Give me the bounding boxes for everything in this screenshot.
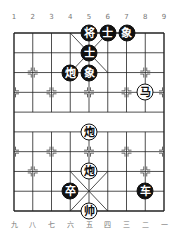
file-label-bottom: 一 — [161, 222, 168, 229]
piece-black[interactable]: 象 — [81, 64, 98, 81]
file-label-bottom: 三 — [123, 222, 130, 229]
file-label-bottom: 九 — [11, 222, 18, 229]
piece-black[interactable]: 卒 — [62, 183, 79, 200]
file-label-top: 5 — [87, 14, 91, 21]
file-label-bottom: 二 — [142, 222, 149, 229]
file-label-top: 3 — [49, 14, 53, 21]
file-label-bottom: 四 — [104, 222, 111, 229]
file-label-top: 4 — [68, 14, 72, 21]
file-label-top: 8 — [143, 14, 147, 21]
piece-red[interactable]: 炮 — [81, 123, 98, 140]
piece-black[interactable]: 象 — [118, 25, 135, 42]
piece-red[interactable]: 炮 — [81, 163, 98, 180]
file-label-bottom: 八 — [29, 222, 36, 229]
file-label-bottom: 五 — [86, 222, 93, 229]
piece-red[interactable]: 帅 — [81, 203, 98, 220]
piece-black[interactable]: 车 — [137, 183, 154, 200]
piece-black[interactable]: 炮 — [62, 64, 79, 81]
file-label-top: 2 — [31, 14, 35, 21]
piece-black[interactable]: 士 — [99, 25, 116, 42]
file-label-bottom: 七 — [48, 222, 55, 229]
file-label-bottom: 六 — [67, 222, 74, 229]
file-label-top: 6 — [106, 14, 110, 21]
piece-red[interactable]: 马 — [137, 84, 154, 101]
file-label-top: 1 — [12, 14, 16, 21]
piece-black[interactable]: 士 — [81, 44, 98, 61]
piece-black[interactable]: 将 — [81, 25, 98, 42]
file-label-top: 9 — [162, 14, 166, 21]
file-label-top: 7 — [124, 14, 128, 21]
